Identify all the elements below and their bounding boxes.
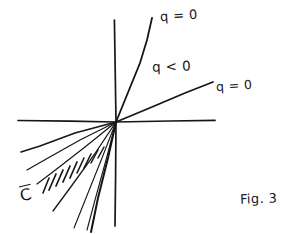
- hatch-mark: [43, 178, 49, 193]
- steep-upper-ray: [116, 18, 152, 122]
- hatch-mark: [49, 174, 56, 190]
- hatch-mark: [91, 150, 98, 163]
- label-q-equals-zero-top: q = 0: [160, 7, 199, 24]
- hatch-mark: [70, 162, 77, 178]
- figure-caption: Fig. 3: [240, 190, 278, 206]
- fan-ray-1: [21, 122, 116, 152]
- label-q-equals-zero-right: q = 0: [216, 77, 253, 94]
- third-quadrant-fan-group: [21, 122, 116, 232]
- label-q-less-than-zero: q < 0: [152, 57, 192, 74]
- hatch-mark: [63, 166, 70, 182]
- hatch-mark: [56, 170, 63, 186]
- figure-3-diagram: q = 0 q < 0 q = 0 C Fig. 3: [0, 0, 294, 234]
